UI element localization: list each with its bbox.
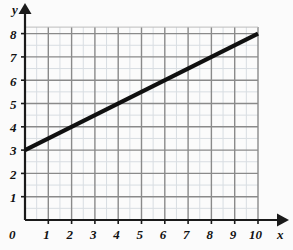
x-tick-label-2: 2 xyxy=(67,228,74,241)
x-axis-label: x xyxy=(277,228,284,241)
x-tick-label-10: 10 xyxy=(249,228,262,241)
x-tick-label-7: 7 xyxy=(183,228,190,241)
y-tick-label-5: 5 xyxy=(10,98,17,111)
y-axis-label: y xyxy=(12,3,18,16)
x-tick-label-3: 3 xyxy=(90,228,97,241)
y-axis xyxy=(19,3,32,220)
plot-area xyxy=(0,0,293,250)
x-axis xyxy=(25,214,289,227)
y-tick-label-8: 8 xyxy=(10,28,17,41)
origin-tick-label: 0 xyxy=(9,228,16,241)
x-tick-label-9: 9 xyxy=(230,228,237,241)
y-tick-label-1: 1 xyxy=(10,191,17,204)
y-tick-label-7: 7 xyxy=(10,51,17,64)
x-tick-label-4: 4 xyxy=(113,228,120,241)
axis-ticks xyxy=(21,34,258,224)
x-tick-label-1: 1 xyxy=(43,228,50,241)
x-tick-label-8: 8 xyxy=(206,228,213,241)
y-tick-label-4: 4 xyxy=(10,121,17,134)
coordinate-graph: y x 0 1 2 3 4 5 6 7 8 1 2 3 4 5 6 7 8 9 … xyxy=(0,0,293,250)
y-tick-label-2: 2 xyxy=(10,168,17,181)
y-tick-label-3: 3 xyxy=(10,144,17,157)
x-tick-label-6: 6 xyxy=(160,228,167,241)
x-tick-label-5: 5 xyxy=(137,228,144,241)
y-tick-label-6: 6 xyxy=(10,75,17,88)
